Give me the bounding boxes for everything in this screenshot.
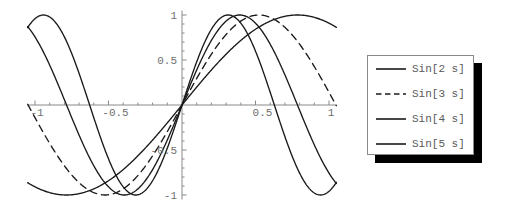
legend-entry-sin5s[interactable]: Sin[5 s] — [368, 131, 475, 156]
plot-area: -1-0.50.5110.5-0.5-1 — [0, 0, 350, 215]
y-tick-label-neg-0-5: -0.5 — [151, 145, 177, 157]
x-tick-label-0-5: 0.5 — [253, 107, 273, 119]
legend-line-sample-dashed — [376, 89, 406, 99]
y-tick-label-neg-1: -1 — [164, 190, 178, 202]
legend-label-sin3s: Sin[3 s] — [412, 88, 465, 100]
legend-label-sin4s: Sin[4 s] — [412, 113, 465, 125]
legend-label-sin5s: Sin[5 s] — [412, 138, 465, 150]
chart-root: -1-0.50.5110.5-0.5-1 Sin[2 s] Sin[3 s] — [0, 0, 506, 215]
legend-line-sample-solid — [376, 139, 406, 149]
legend-entry-sin2s[interactable]: Sin[2 s] — [368, 56, 475, 81]
x-tick-label-neg-1: -1 — [30, 107, 44, 119]
x-tick-label-1: 1 — [328, 107, 335, 119]
x-tick-label-neg-0-5: -0.5 — [102, 107, 128, 119]
y-tick-label-1: 1 — [170, 10, 177, 22]
legend-label-sin2s: Sin[2 s] — [412, 63, 465, 75]
legend-line-sample-solid — [376, 114, 406, 124]
legend-entry-sin3s[interactable]: Sin[3 s] — [368, 81, 475, 106]
legend-entry-sin4s[interactable]: Sin[4 s] — [368, 106, 475, 131]
legend-line-sample-solid — [376, 64, 406, 74]
sine-plot-svg: -1-0.50.5110.5-0.5-1 — [0, 0, 350, 215]
tick-labels-group: -1-0.50.5110.5-0.5-1 — [30, 10, 334, 202]
y-tick-label-0-5: 0.5 — [157, 55, 177, 67]
legend-box: Sin[2 s] Sin[3 s] Sin[4 s] — [367, 55, 474, 155]
